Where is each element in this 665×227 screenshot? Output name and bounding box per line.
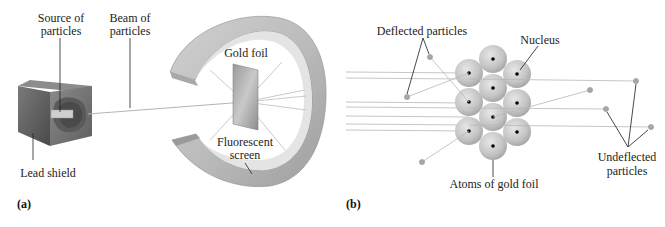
panel-b-tag: (b) <box>346 197 361 211</box>
label-atoms: Atoms of gold foil <box>450 177 540 191</box>
label-beam-l1: Beam of <box>110 11 151 25</box>
lead-shield-box <box>18 80 92 146</box>
panel-b: Deflected particles Nucleus Atoms of gol… <box>346 24 656 211</box>
label-deflected: Deflected particles <box>377 24 468 38</box>
label-lead-shield: Lead shield <box>20 166 76 180</box>
panel-a-tag: (a) <box>17 197 31 211</box>
label-undeflected-l2: particles <box>607 164 648 178</box>
label-undeflected-l1: Undeflected <box>598 150 657 164</box>
label-screen-l2: screen <box>230 148 261 162</box>
beam-line <box>88 102 245 114</box>
label-source-l2: particles <box>41 24 82 38</box>
rutherford-diagram: Source of particles Beam of particles Go… <box>0 0 665 227</box>
panel-a: Source of particles Beam of particles Go… <box>17 11 326 211</box>
label-screen-l1: Fluorescent <box>217 135 274 149</box>
label-gold-foil: Gold foil <box>224 46 268 60</box>
label-beam-l2: particles <box>110 24 151 38</box>
gold-foil <box>233 64 258 130</box>
label-source-l1: Source of <box>38 11 84 25</box>
gold-atoms <box>455 45 531 160</box>
label-nucleus: Nucleus <box>520 33 560 47</box>
